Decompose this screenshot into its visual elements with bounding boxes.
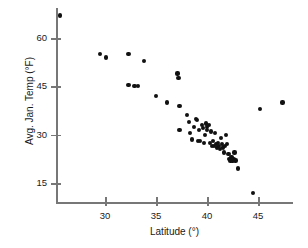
data-point [136, 84, 140, 88]
x-tick-mark [258, 197, 260, 206]
y-tick-mark [51, 86, 61, 88]
data-point [58, 13, 62, 17]
x-tick-label: 45 [243, 211, 273, 221]
data-point [202, 141, 206, 145]
data-point [126, 83, 130, 87]
data-point [126, 52, 130, 56]
y-axis-title: Avg. Jan. Temp (°F) [25, 21, 35, 181]
y-tick-mark [51, 38, 61, 40]
data-point [225, 142, 229, 146]
data-point [213, 131, 217, 135]
data-point [177, 128, 181, 132]
data-point [104, 55, 108, 59]
data-point [176, 76, 180, 80]
data-point [232, 150, 236, 154]
data-point [192, 125, 196, 129]
data-point [224, 133, 228, 137]
data-point [154, 94, 158, 98]
x-tick-label: 40 [192, 211, 222, 221]
data-point [233, 158, 237, 162]
data-point [251, 191, 255, 195]
x-tick-label: 35 [141, 211, 171, 221]
scatter-chart: 15304560 30354045 Avg. Jan. Temp (°F) La… [0, 0, 308, 248]
data-point [98, 52, 102, 56]
x-tick-mark [105, 197, 107, 206]
y-tick-mark [51, 183, 61, 185]
data-point [236, 166, 240, 170]
x-tick-mark [156, 197, 158, 206]
data-point [142, 59, 146, 63]
x-tick-mark [207, 197, 209, 206]
data-point [165, 100, 169, 104]
data-point [190, 137, 194, 141]
x-axis-title: Latitude (°) [56, 227, 293, 237]
data-point [187, 120, 191, 124]
data-point [219, 136, 223, 140]
data-point [203, 133, 207, 137]
data-point [188, 131, 192, 135]
y-tick-mark [51, 135, 61, 137]
data-point [258, 107, 262, 111]
data-point [207, 123, 211, 127]
x-tick-label: 30 [90, 211, 120, 221]
data-point [177, 104, 181, 108]
data-point [195, 118, 199, 122]
data-point [185, 113, 189, 117]
data-point [175, 71, 179, 75]
data-point [280, 100, 284, 104]
